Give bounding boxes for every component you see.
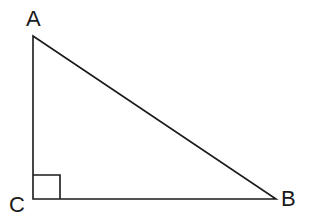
triangle-diagram: A C B: [0, 0, 309, 220]
vertex-label-c: C: [9, 192, 25, 217]
vertex-label-a: A: [26, 6, 41, 31]
vertex-label-b: B: [281, 186, 296, 211]
triangle-abc: [33, 36, 276, 199]
right-angle-marker: [33, 175, 60, 199]
